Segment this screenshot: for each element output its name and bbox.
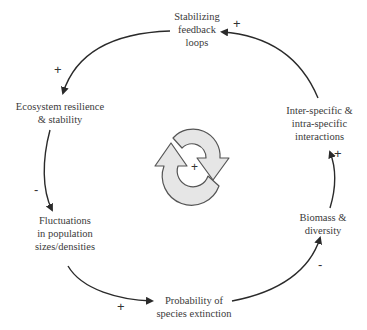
link-fluctuations-to-extinction <box>68 266 152 301</box>
link-stabilizing-to-resilience <box>63 31 170 93</box>
node-ecosystem-resilience: Ecosystem resilience & stability <box>10 100 110 126</box>
sign-resilience-fluctuations: - <box>34 182 38 197</box>
node-label-line: Probability of <box>154 294 234 307</box>
loop-polarity-sign: + <box>191 160 198 174</box>
sign-stabilizing-resilience: + <box>54 62 62 77</box>
node-interactions: Inter-specific & intra-specific interact… <box>282 104 357 143</box>
node-label-line: intra-specific <box>282 117 357 130</box>
node-label-line: Ecosystem resilience <box>10 100 110 113</box>
link-extinction-to-biomass <box>232 238 320 301</box>
node-stabilizing-feedback-loops: Stabilizing feedback loops <box>172 10 222 49</box>
node-fluctuations: Fluctuations in population sizes/densiti… <box>30 214 100 253</box>
diagram-canvas <box>0 0 367 330</box>
node-label-line: species extinction <box>154 307 234 320</box>
node-biomass-diversity: Biomass & diversity <box>298 211 348 237</box>
node-label-line: interactions <box>282 130 357 143</box>
node-label-line: sizes/densities <box>30 240 100 253</box>
node-label-line: Stabilizing <box>172 10 222 23</box>
link-interactions-to-stabilizing <box>222 32 318 98</box>
node-label-line: loops <box>172 36 222 49</box>
link-resilience-to-fluctuations <box>44 130 52 210</box>
node-label-line: in population <box>30 227 100 240</box>
node-label-line: Fluctuations <box>30 214 100 227</box>
node-label-line: diversity <box>298 224 348 237</box>
sign-biomass-interactions: + <box>334 146 342 161</box>
sign-interactions-stabilizing: + <box>233 16 241 31</box>
node-label-line: feedback <box>172 23 222 36</box>
node-species-extinction: Probability of species extinction <box>154 294 234 320</box>
sign-extinction-biomass: - <box>318 257 322 272</box>
node-label-line: Biomass & <box>298 211 348 224</box>
node-label-line: & stability <box>10 113 110 126</box>
sign-fluctuations-extinction: + <box>117 299 125 314</box>
node-label-line: Inter-specific & <box>282 104 357 117</box>
